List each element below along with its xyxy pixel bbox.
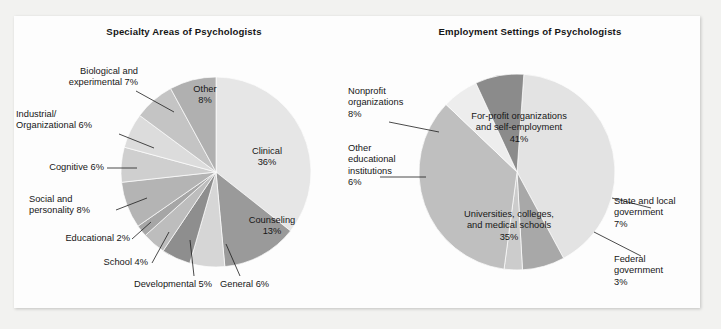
label-counseling: Counseling 13% bbox=[231, 215, 313, 238]
label-for-profit-organizations: For-profit organizations and self-employ… bbox=[426, 111, 612, 145]
label-cognitive: Cognitive 6% bbox=[14, 162, 104, 173]
label-nonprofit-organizations: Nonprofit organizations 8% bbox=[348, 86, 434, 120]
label-general: General 6% bbox=[220, 279, 310, 290]
leader-federal bbox=[594, 232, 641, 256]
label-educational: Educational 2% bbox=[18, 233, 130, 244]
label-developmental: Developmental 5% bbox=[118, 279, 228, 290]
label-state-and-local-government: State and local government 7% bbox=[614, 196, 704, 230]
label-clinical: Clinical 36% bbox=[230, 146, 304, 169]
figure-root: Specialty Areas of Psychologists Employm… bbox=[0, 0, 721, 329]
figure-panel: Specialty Areas of Psychologists Employm… bbox=[14, 16, 700, 308]
label-other: Other 8% bbox=[174, 84, 236, 107]
label-biological-and-experimental: Biological and experimental 7% bbox=[22, 66, 138, 89]
label-social-and-personality: Social and personality 8% bbox=[29, 194, 134, 217]
label-school: School 4% bbox=[44, 257, 148, 268]
label-federal-government: Federal government 3% bbox=[614, 254, 698, 288]
label-other-educational-institutions: Other educational institutions 6% bbox=[348, 143, 428, 189]
label-industrial-organizational: Industrial/ Organizational 6% bbox=[16, 109, 126, 132]
label-universities-colleges: Universities, colleges, and medical scho… bbox=[418, 209, 600, 243]
